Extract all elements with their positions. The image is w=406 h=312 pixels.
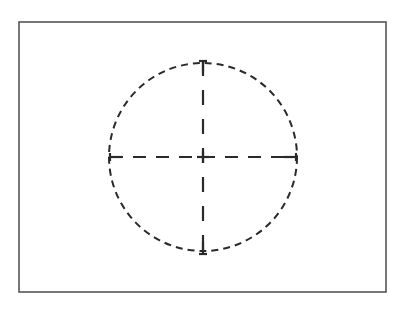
- diagram-figure: [0, 0, 406, 312]
- diagram-canvas: [0, 0, 406, 312]
- center-cross-mark: [197, 151, 209, 163]
